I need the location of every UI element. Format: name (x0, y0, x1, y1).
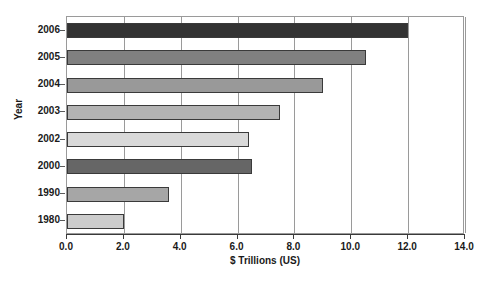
x-axis-tick-label: 8.0 (273, 241, 313, 252)
x-axis-tick-mark (180, 234, 181, 239)
bar-row (67, 208, 463, 235)
y-axis-tick-mark (60, 139, 65, 140)
x-axis-tick-mark (407, 234, 408, 239)
x-axis-tick-label: 0.0 (46, 241, 86, 252)
bar (67, 159, 252, 174)
bar-row (67, 99, 463, 126)
x-axis-tick-label: 4.0 (160, 241, 200, 252)
y-axis-tick-mark (60, 111, 65, 112)
y-axis-tick-label: 2003 (20, 106, 60, 116)
y-axis-tick-mark (60, 193, 65, 194)
bar-chart-figure: 20062005200420032002200019901980 Year 0.… (0, 0, 499, 281)
bar-row (67, 17, 463, 44)
y-axis-tick-label: 2002 (20, 134, 60, 144)
bar (67, 50, 366, 65)
x-axis-tick-label: 10.0 (330, 241, 370, 252)
y-axis-tick-label: 2005 (20, 52, 60, 62)
bar-row (67, 153, 463, 180)
x-axis-tick-mark (293, 234, 294, 239)
bar-row (67, 181, 463, 208)
x-axis-tick-mark (464, 234, 465, 239)
bar-row (67, 72, 463, 99)
y-axis-tick-mark (60, 57, 65, 58)
x-axis-tick-mark (350, 234, 351, 239)
y-axis-tick-label: 2004 (20, 79, 60, 89)
x-axis-tick-label: 2.0 (103, 241, 143, 252)
bar-row (67, 126, 463, 153)
bar-row (67, 44, 463, 71)
y-axis-tick-label: 2000 (20, 161, 60, 171)
x-axis-tick-label: 12.0 (387, 241, 427, 252)
bar (67, 132, 249, 147)
y-axis-tick-label: 1980 (20, 215, 60, 225)
bar (67, 187, 169, 202)
x-axis-tick-mark (123, 234, 124, 239)
x-axis-tick-mark (237, 234, 238, 239)
x-axis-tick-label: 6.0 (217, 241, 257, 252)
y-axis-tick-label: 1990 (20, 188, 60, 198)
plot-area (66, 16, 464, 234)
bar (67, 78, 323, 93)
bar (67, 214, 124, 229)
y-axis-tick-label: 2006 (20, 25, 60, 35)
chart-title (0, 0, 499, 2)
y-axis-tick-mark (60, 84, 65, 85)
bar (67, 105, 280, 120)
x-axis-tick-mark (66, 234, 67, 239)
bar (67, 23, 408, 38)
gridline (465, 17, 466, 233)
y-axis-tick-mark (60, 220, 65, 221)
x-axis-line (66, 234, 464, 235)
y-axis-tick-mark (60, 166, 65, 167)
x-axis-tick-label: 14.0 (444, 241, 484, 252)
y-axis-title: Year (13, 80, 24, 140)
y-axis-tick-mark (60, 30, 65, 31)
x-axis-title: $ Trillions (US) (66, 255, 464, 266)
